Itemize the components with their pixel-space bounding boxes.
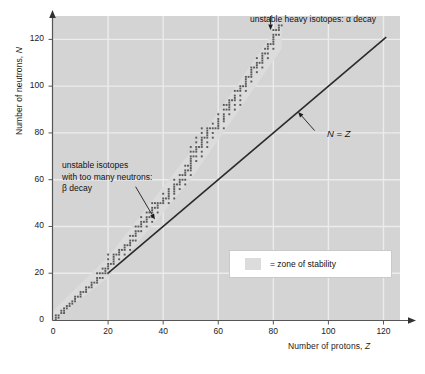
isotope-point xyxy=(234,97,236,99)
isotope-point xyxy=(212,137,214,139)
isotope-point xyxy=(190,155,192,157)
isotope-point xyxy=(99,277,101,279)
isotope-point xyxy=(113,258,115,260)
isotope-point xyxy=(55,314,57,316)
isotope-point xyxy=(129,235,131,237)
isotope-point xyxy=(58,314,60,316)
isotope-point xyxy=(176,183,178,185)
isotope-point xyxy=(201,144,203,146)
isotope-point xyxy=(201,155,203,157)
isotope-point xyxy=(124,249,126,251)
isotope-point xyxy=(212,123,214,125)
isotope-point xyxy=(278,27,280,29)
isotope-point xyxy=(256,62,258,64)
isotope-point xyxy=(223,116,225,118)
isotope-point xyxy=(77,296,79,298)
isotope-point xyxy=(173,179,175,181)
alpha-decay-annotation: unstable heavy isotopes: α decay xyxy=(250,14,376,26)
isotope-point xyxy=(201,141,203,143)
isotope-point xyxy=(195,146,197,148)
isotope-point xyxy=(242,85,244,87)
isotope-point xyxy=(107,263,109,265)
isotope-point xyxy=(118,249,120,251)
isotope-point xyxy=(96,277,98,279)
isotope-point xyxy=(168,193,170,195)
isotope-point xyxy=(85,289,87,291)
isotope-point xyxy=(217,113,219,115)
isotope-point xyxy=(63,307,65,309)
x-tick-label: 40 xyxy=(151,326,175,336)
isotope-point xyxy=(272,34,274,36)
isotope-point xyxy=(217,127,219,129)
isotope-point xyxy=(91,284,93,286)
isotope-point xyxy=(179,181,181,183)
x-tick-label: 120 xyxy=(371,326,395,336)
isotope-point xyxy=(63,310,65,312)
isotope-point xyxy=(272,41,274,43)
isotope-point xyxy=(267,53,269,55)
isotope-point xyxy=(173,193,175,195)
isotope-point xyxy=(253,67,255,69)
isotope-point xyxy=(278,34,280,36)
isotope-point xyxy=(121,249,123,251)
isotope-point xyxy=(80,293,82,295)
isotope-point xyxy=(201,132,203,134)
isotope-point xyxy=(55,319,57,320)
isotope-point xyxy=(96,272,98,274)
y-tick-label: 80 xyxy=(22,127,44,137)
y-tick-label: 20 xyxy=(22,267,44,277)
isotope-point xyxy=(151,209,153,211)
x-axis-title-prefix: Number of protons, xyxy=(288,341,365,351)
isotope-point xyxy=(228,113,230,115)
isotope-point xyxy=(201,151,203,153)
legend-swatch-zone-of-stability xyxy=(245,258,261,270)
isotope-point xyxy=(278,29,280,31)
isotope-point xyxy=(60,312,62,314)
isotope-point xyxy=(264,48,266,50)
isotope-point xyxy=(201,139,203,141)
isotope-point xyxy=(190,165,192,167)
isotope-point xyxy=(198,146,200,148)
isotope-point xyxy=(217,123,219,125)
isotope-point xyxy=(267,46,269,48)
isotope-point xyxy=(140,216,142,218)
isotope-point xyxy=(74,298,76,300)
isotope-point xyxy=(157,205,159,207)
isotope-point xyxy=(190,169,192,171)
isotope-point xyxy=(168,195,170,197)
y-axis-title: Number of neutrons, N xyxy=(14,36,24,146)
isotope-point xyxy=(239,104,241,106)
isotope-point xyxy=(250,71,252,73)
isotope-point xyxy=(162,198,164,200)
isotope-point xyxy=(223,120,225,122)
isotope-point xyxy=(113,261,115,263)
isotope-point xyxy=(162,200,164,202)
isotope-point xyxy=(245,85,247,87)
isotope-point xyxy=(160,202,162,204)
isotope-point xyxy=(135,230,137,232)
isotope-point xyxy=(259,62,261,64)
isotope-point xyxy=(261,60,263,62)
isotope-point xyxy=(66,305,68,307)
x-tick-label: 20 xyxy=(96,326,120,336)
isotope-point xyxy=(80,296,82,298)
isotope-point xyxy=(187,165,189,167)
isotope-point xyxy=(215,127,217,129)
isotope-point xyxy=(184,179,186,181)
x-tick-label: 60 xyxy=(206,326,230,336)
y-axis-title-symbol: N xyxy=(14,47,24,53)
isotope-point xyxy=(204,137,206,139)
isotope-point xyxy=(129,242,131,244)
isotope-point xyxy=(80,291,82,293)
isotope-point xyxy=(256,57,258,59)
isotope-point xyxy=(190,174,192,176)
x-axis-title-symbol: Z xyxy=(365,341,370,351)
isotope-point xyxy=(261,57,263,59)
isotope-point xyxy=(228,99,230,101)
isotope-point xyxy=(99,272,101,274)
isotope-point xyxy=(140,223,142,225)
isotope-point xyxy=(107,272,109,274)
isotope-point xyxy=(264,53,266,55)
isotope-point xyxy=(184,174,186,176)
isotope-point xyxy=(261,53,263,55)
